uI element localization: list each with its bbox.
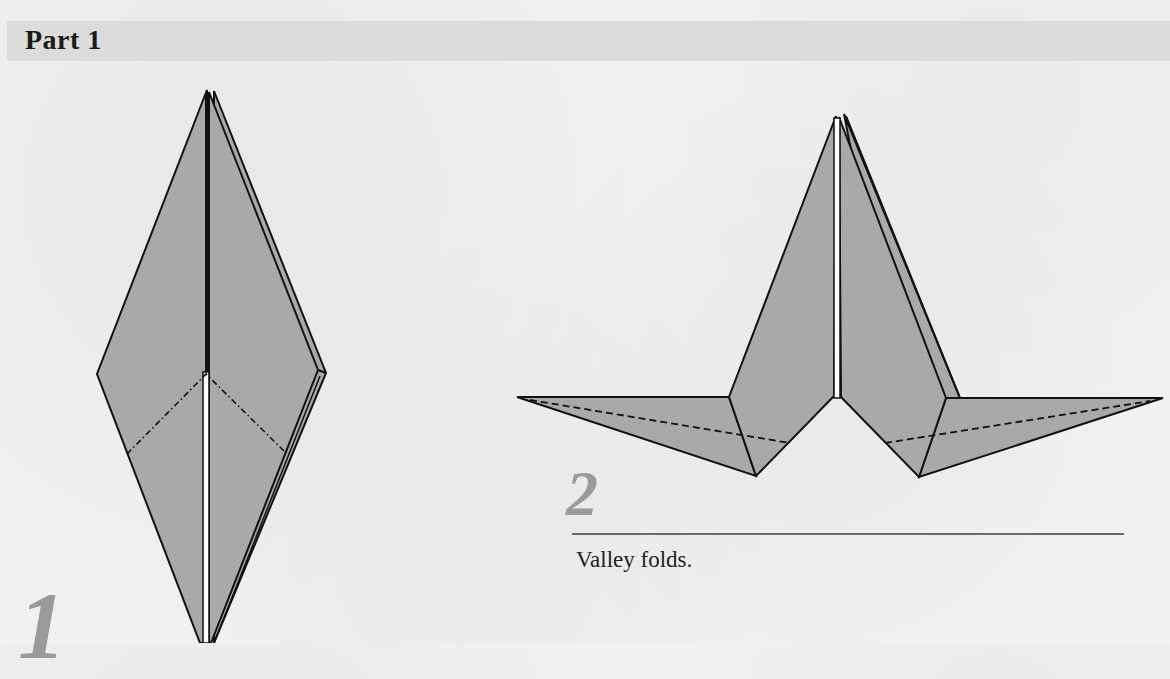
step-2-instruction: Valley folds.: [576, 547, 692, 573]
step-2-divider: [572, 533, 1124, 535]
step-number-2: 2: [566, 462, 598, 526]
step-number-1: 1: [18, 578, 66, 674]
step-1-diagram: [97, 90, 326, 643]
step-2-diagram: [517, 114, 1163, 477]
